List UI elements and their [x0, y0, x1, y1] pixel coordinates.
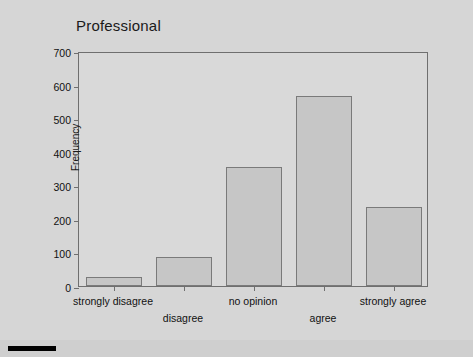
bar [296, 96, 352, 286]
bar [156, 257, 212, 286]
y-axis-tick [74, 120, 79, 121]
y-axis-tick [74, 154, 79, 155]
bar [86, 277, 142, 286]
bottom-scrollbar-track[interactable] [0, 340, 473, 357]
x-axis-tick [254, 286, 255, 291]
x-axis-category-label: no opinion [229, 295, 277, 307]
bar [226, 167, 282, 286]
bottom-scrollbar-thumb[interactable] [8, 346, 56, 351]
y-axis-tick [74, 187, 79, 188]
y-axis-tick [74, 288, 79, 289]
plot-inner: Frequency 0100200300400500600700 [79, 53, 427, 286]
x-axis-tick [114, 286, 115, 291]
y-axis-tick [74, 87, 79, 88]
chart-panel: Professional Frequency 01002003004005006… [0, 0, 473, 340]
y-axis-tick-label: 0 [65, 282, 71, 294]
y-axis-tick [74, 221, 79, 222]
x-axis-tick [394, 286, 395, 291]
bar [366, 207, 422, 286]
y-axis-title: Frequency [70, 124, 81, 171]
chart-title: Professional [76, 17, 161, 34]
x-axis-category-label: strongly agree [360, 295, 427, 307]
plot-area: Frequency 0100200300400500600700 [78, 52, 428, 287]
y-axis-tick-label: 100 [53, 248, 71, 260]
x-axis-tick [324, 286, 325, 291]
x-axis-category-label: disagree [163, 312, 203, 324]
y-axis-tick-label: 700 [53, 47, 71, 59]
y-axis-tick-label: 200 [53, 215, 71, 227]
y-axis-tick-label: 400 [53, 148, 71, 160]
page-background: Professional Frequency 01002003004005006… [0, 0, 473, 357]
y-axis-tick-label: 300 [53, 181, 71, 193]
x-axis-category-label: agree [310, 312, 337, 324]
y-axis-tick-label: 500 [53, 114, 71, 126]
x-axis-tick [184, 286, 185, 291]
y-axis-tick [74, 254, 79, 255]
x-axis-category-label: strongly disagree [73, 295, 153, 307]
y-axis-tick-label: 600 [53, 81, 71, 93]
y-axis-tick [74, 53, 79, 54]
